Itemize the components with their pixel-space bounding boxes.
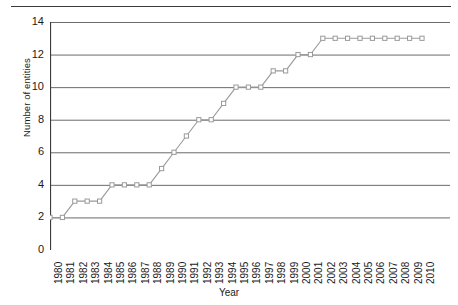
x-tick-label: 2006 (376, 262, 386, 284)
data-point-marker (222, 101, 226, 105)
data-point-marker (333, 36, 337, 40)
x-tick-label: 1991 (190, 262, 200, 284)
x-tick-label: 1994 (228, 262, 238, 284)
data-point-marker (296, 52, 300, 56)
data-point-marker (135, 183, 139, 187)
data-point-marker (184, 134, 188, 138)
data-point-marker (50, 215, 52, 219)
plot-area (50, 22, 450, 250)
data-point-marker (408, 36, 412, 40)
y-tick-label: 6 (22, 146, 44, 157)
y-tick-label: 2 (22, 211, 44, 222)
data-point-marker (73, 199, 77, 203)
x-tick-label: 1981 (66, 262, 76, 284)
x-tick-label: 1985 (116, 262, 126, 284)
data-point-marker (358, 36, 362, 40)
data-point-marker (234, 85, 238, 89)
data-point-marker (98, 199, 102, 203)
x-axis-title: Year (0, 287, 458, 298)
x-tick-label: 1998 (277, 262, 287, 284)
data-point-marker (122, 183, 126, 187)
chart-svg (50, 22, 450, 250)
y-tick-label: 14 (22, 16, 44, 27)
x-tick-label: 1993 (215, 262, 225, 284)
x-tick-label: 1982 (79, 262, 89, 284)
x-tick-label: 2005 (364, 262, 374, 284)
x-tick-label: 1989 (166, 262, 176, 284)
x-tick-label: 2009 (414, 262, 424, 284)
data-point-marker (420, 36, 424, 40)
x-tick-label: 2008 (401, 262, 411, 284)
data-point-marker (147, 183, 151, 187)
y-tick-label: 8 (22, 114, 44, 125)
data-point-marker (209, 118, 213, 122)
x-tick-label: 1999 (290, 262, 300, 284)
data-point-marker (85, 199, 89, 203)
data-point-marker (346, 36, 350, 40)
x-tick-label: 1986 (128, 262, 138, 284)
x-tick-label: 2002 (327, 262, 337, 284)
data-point-marker (383, 36, 387, 40)
data-point-marker (308, 52, 312, 56)
data-point-marker (284, 69, 288, 73)
x-tick-label: 1990 (178, 262, 188, 284)
x-tick-label: 1997 (265, 262, 275, 284)
x-tick-label: 1995 (240, 262, 250, 284)
x-tick-label: 1988 (153, 262, 163, 284)
x-tick-label: 2000 (302, 262, 312, 284)
data-point-marker (197, 118, 201, 122)
data-point-marker (110, 183, 114, 187)
data-point-marker (160, 166, 164, 170)
y-axis-tick-labels: 02468101214 (22, 0, 44, 305)
y-tick-label: 0 (22, 244, 44, 255)
x-tick-label: 1983 (91, 262, 101, 284)
data-point-marker (246, 85, 250, 89)
x-tick-label: 2004 (352, 262, 362, 284)
x-tick-label: 1984 (104, 262, 114, 284)
x-tick-label: 1992 (203, 262, 213, 284)
y-tick-label: 4 (22, 179, 44, 190)
x-tick-label: 1987 (141, 262, 151, 284)
x-tick-label: 2007 (389, 262, 399, 284)
data-point-marker (370, 36, 374, 40)
x-tick-label: 2003 (339, 262, 349, 284)
x-tick-label: 2001 (314, 262, 324, 284)
data-point-marker (271, 69, 275, 73)
x-tick-label: 2010 (426, 262, 436, 284)
line-chart-figure: Number of entities 02468101214 198019811… (0, 0, 458, 305)
y-tick-label: 10 (22, 81, 44, 92)
data-point-marker (259, 85, 263, 89)
data-point-marker (395, 36, 399, 40)
y-tick-label: 12 (22, 49, 44, 60)
data-series-line (50, 38, 422, 217)
data-point-marker (60, 215, 64, 219)
x-tick-label: 1996 (252, 262, 262, 284)
x-tick-label: 1980 (54, 262, 64, 284)
data-point-marker (321, 36, 325, 40)
data-point-marker (172, 150, 176, 154)
